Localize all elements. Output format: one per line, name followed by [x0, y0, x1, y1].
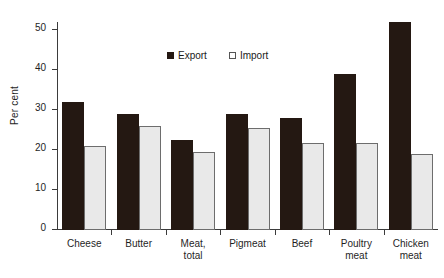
bar-export [62, 102, 84, 230]
y-tick-label: 50 [35, 22, 46, 33]
x-axis-label-line: total [154, 250, 232, 262]
x-axis-label-line: Chicken [372, 238, 444, 250]
bar-export [171, 140, 193, 230]
y-tick-label: 0 [40, 222, 46, 233]
y-axis-title: Per cent [9, 66, 20, 146]
x-tick [329, 230, 330, 235]
plot-area: 01020304050 [57, 22, 438, 230]
x-tick [166, 230, 167, 235]
y-tick-label: 40 [35, 62, 46, 73]
bar-import [411, 154, 433, 230]
y-tick: 40 [52, 69, 58, 70]
y-tick-label: 10 [35, 182, 46, 193]
bar-chart: Per cent ExportImport 01020304050 Cheese… [0, 0, 444, 278]
bar-group [388, 22, 434, 230]
bar-group [225, 114, 271, 230]
bar-group [170, 140, 216, 230]
y-tick: 0 [52, 229, 58, 230]
bar-import [302, 143, 324, 230]
x-tick [220, 230, 221, 235]
y-axis-line [57, 22, 58, 230]
bar-import [248, 128, 270, 230]
x-tick [275, 230, 276, 235]
bar-group [279, 118, 325, 230]
y-tick: 20 [52, 149, 58, 150]
y-tick-label: 30 [35, 102, 46, 113]
x-axis-label-line: meat [372, 250, 444, 262]
y-tick: 50 [52, 29, 58, 30]
bar-export [389, 22, 411, 230]
bar-import [193, 152, 215, 230]
bar-import [139, 126, 161, 230]
bar-group [116, 114, 162, 230]
y-tick: 30 [52, 109, 58, 110]
x-tick [111, 230, 112, 235]
bar-export [226, 114, 248, 230]
x-axis-label: Chickenmeat [372, 238, 444, 262]
bar-group [333, 74, 379, 230]
x-tick [384, 230, 385, 235]
y-tick: 10 [52, 189, 58, 190]
y-tick-label: 20 [35, 142, 46, 153]
bar-export [117, 114, 139, 230]
bar-export [334, 74, 356, 230]
bar-import [84, 146, 106, 230]
bar-group [61, 102, 107, 230]
bar-import [356, 143, 378, 230]
bar-export [280, 118, 302, 230]
